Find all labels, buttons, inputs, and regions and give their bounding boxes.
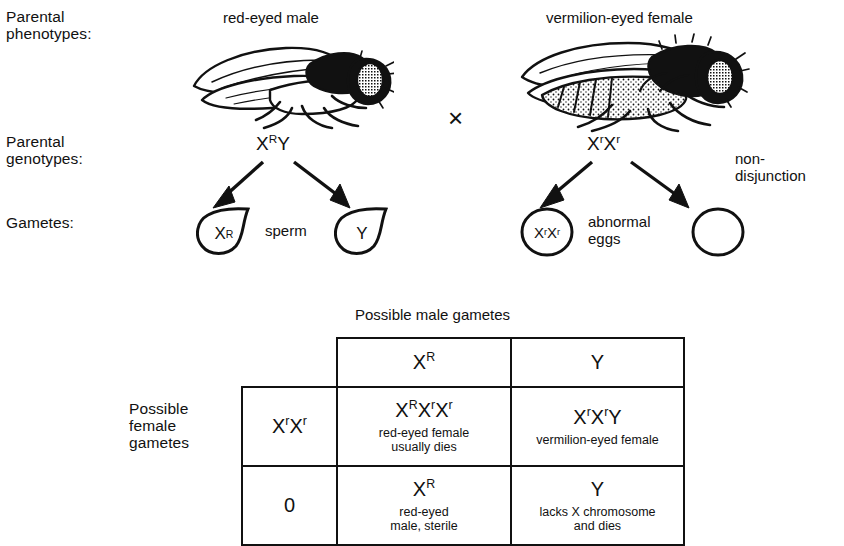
label-parental-genotypes: Parental genotypes: — [6, 133, 83, 167]
gamete-sperm-y: Y — [334, 206, 390, 258]
punnett-col-header-0-symbol: XR — [338, 351, 510, 374]
female-phenotype-title: vermilion-eyed female — [546, 9, 693, 26]
male-genotype-tail: Y — [277, 133, 290, 154]
punnett-cell-1-1-note: lacks X chromosome and dies — [512, 505, 683, 533]
punnett-cell-0-0-note: red-eyed female usually dies — [338, 426, 510, 454]
punnett-cell-0-1-genotype: XrXrY — [512, 406, 683, 429]
punnett-row-header-0: XrXr — [242, 387, 337, 466]
punnett-cell-0-0: XRXrXr red-eyed female usually dies — [337, 387, 511, 466]
label-gametes: Gametes: — [6, 214, 74, 231]
punnett-col-header-1: Y — [511, 338, 684, 387]
fly-illustration-female — [512, 33, 750, 135]
punnett-cell-1-0-note: red-eyed male, sterile — [338, 505, 510, 533]
punnett-cell-1-0: XR red-eyed male, sterile — [337, 466, 511, 545]
punnett-row-header-1-symbol: 0 — [284, 494, 295, 516]
punnett-row-0: XrXr XRXrXr red-eyed female usually dies… — [242, 387, 684, 466]
fly-illustration-male — [182, 38, 394, 134]
cross-symbol: × — [448, 103, 463, 134]
gamete-sperm-y-label: Y — [334, 206, 390, 258]
punnett-cell-0-0-genotype: XRXrXr — [338, 399, 510, 422]
gamete-sperm-xr: XR — [196, 206, 252, 258]
punnett-row-header-1: 0 — [242, 466, 337, 545]
male-phenotype-title: red-eyed male — [223, 9, 319, 26]
male-genotype: XRY — [256, 133, 290, 155]
label-parental-phenotypes: Parental phenotypes: — [6, 8, 92, 42]
female-genotype: XrXr — [587, 133, 620, 155]
gamete-egg-null-label — [690, 206, 746, 258]
gamete-sperm-xr-label: XR — [196, 206, 252, 258]
punnett-cell-0-1-note: vermilion-eyed female — [512, 433, 683, 447]
punnett-corner-cell — [242, 338, 337, 387]
punnett-row-1: 0 XR red-eyed male, sterile Y lacks X ch… — [242, 466, 684, 545]
punnett-top-title: Possible male gametes — [355, 306, 510, 323]
male-genotype-base: X — [256, 133, 269, 154]
gamete-egg-xrxr-label: XrXr — [519, 206, 575, 258]
sperm-label: sperm — [265, 222, 307, 239]
gamete-egg-null — [690, 206, 746, 258]
punnett-side-title: Possible female gametes — [129, 400, 189, 451]
punnett-square: XR Y XrXr XRXrXr red-eyed female usually… — [241, 337, 685, 546]
punnett-row-header-0-symbol: XrXr — [272, 415, 307, 437]
male-genotype-sup: R — [269, 132, 278, 145]
punnett-cell-1-0-genotype: XR — [338, 478, 510, 501]
punnett-cell-0-1: XrXrY vermilion-eyed female — [511, 387, 684, 466]
punnett-col-header-1-symbol: Y — [512, 351, 683, 374]
eggs-label: abnormal eggs — [588, 213, 651, 247]
punnett-header-row: XR Y — [242, 338, 684, 387]
female-genotype-tail: X — [604, 133, 617, 154]
nondisjunction-label: non- disjunction — [735, 150, 806, 184]
punnett-cell-1-1: Y lacks X chromosome and dies — [511, 466, 684, 545]
punnett-cell-1-1-genotype: Y — [512, 478, 683, 501]
female-genotype-sup2: r — [616, 132, 620, 145]
punnett-col-header-0: XR — [337, 338, 511, 387]
female-genotype-base: X — [587, 133, 600, 154]
gamete-egg-xrxr: XrXr — [519, 206, 575, 258]
